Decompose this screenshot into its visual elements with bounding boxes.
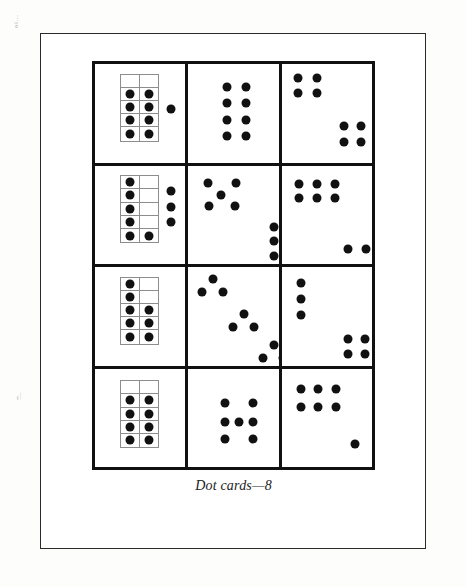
ten-frame-cell [140,408,158,421]
margin-annotation-top: ɵɨ… [12,14,20,28]
dot [221,399,230,408]
dot [294,73,303,82]
dot-card[interactable] [95,267,185,366]
ten-frame-cell [140,278,158,291]
worksheet-sheet: Dot cards—8 [40,33,426,549]
dot [144,319,153,328]
ten-frame-cell [121,88,139,101]
dot [330,179,339,188]
dot [166,104,175,113]
dot [203,178,212,187]
dot [249,417,258,426]
ten-frame-cell [140,330,158,343]
dot [249,399,258,408]
dot-card[interactable] [95,64,185,163]
dot [221,417,230,426]
dot-card[interactable] [282,64,372,163]
ten-frame-cell [121,434,139,447]
dot [313,193,322,202]
ten-frame-cell [140,291,158,304]
dot [351,440,360,449]
dot [312,73,321,82]
ten-frame-cell [121,75,139,88]
dot-card[interactable] [188,166,278,265]
ten-frame-cell [121,189,139,202]
dot [125,306,134,315]
dot-card-grid [92,61,375,470]
ten-frame-cell [140,434,158,447]
ten-frame-cell [121,381,139,394]
dot-card[interactable] [188,369,278,468]
ten-frame-cell [121,176,139,189]
dot-card[interactable] [282,369,372,468]
ten-frame-cell [140,304,158,317]
dot [223,83,232,92]
dot [330,193,339,202]
dot [269,237,278,246]
dot [167,203,176,212]
dot [242,116,251,125]
dot [297,278,306,287]
dot [297,295,306,304]
dot [312,89,321,98]
ten-frame-cell [121,127,139,140]
dot [125,116,134,125]
dot [144,89,153,98]
dot [223,131,232,140]
dot [234,417,243,426]
dot [360,334,369,343]
ten-frame-cell [140,394,158,407]
ten-frame-cell [121,278,139,291]
dot [125,103,134,112]
dot-card[interactable] [188,64,278,163]
dot [343,244,352,253]
ten-frame-cell [121,330,139,343]
ten-frame-cell [140,88,158,101]
dot [144,231,153,240]
ten-frame [120,277,159,345]
ten-frame-cell [140,101,158,114]
dot [125,231,134,240]
dot [204,202,213,211]
ten-frame-cell [140,203,158,216]
dot [125,217,134,226]
ten-frame-cell [140,421,158,434]
dot [269,251,278,260]
dot [314,403,323,412]
dot [125,396,134,405]
dot [331,403,340,412]
figure-caption: Dot cards—8 [92,478,375,494]
dot [250,323,259,332]
dot [339,137,348,146]
dot [144,130,153,139]
dot-card[interactable] [282,267,372,366]
dot [144,396,153,405]
dot [125,204,134,213]
dot [242,98,251,107]
ten-frame-cell [140,127,158,140]
ten-frame-cell [140,189,158,202]
dot [125,319,134,328]
dot-card[interactable] [188,267,278,366]
dot [269,222,278,231]
dot [221,435,230,444]
dot-card[interactable] [282,166,372,265]
ten-frame-cell [121,114,139,127]
dot [313,179,322,188]
ten-frame-cell [121,203,139,216]
dot [269,340,278,349]
ten-frame-cell [140,114,158,127]
ten-frame [120,175,159,243]
dot [297,310,306,319]
dot [295,193,304,202]
dot [208,274,217,283]
dot [239,309,248,318]
dot-card[interactable] [95,369,185,468]
dot-card[interactable] [95,166,185,265]
dot [125,130,134,139]
dot [231,178,240,187]
dot [125,89,134,98]
dot [223,116,232,125]
dot [144,422,153,431]
dot [357,122,366,131]
